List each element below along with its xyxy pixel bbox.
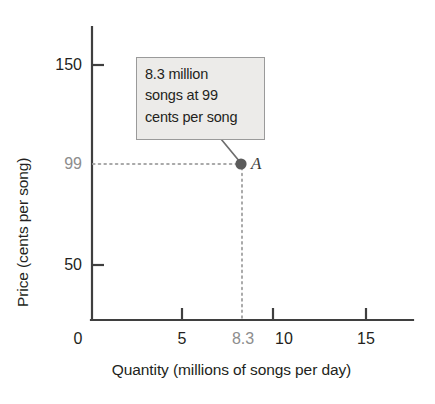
callout-line-1: 8.3 million	[145, 64, 264, 85]
x-tick-label-10: 10	[275, 330, 293, 348]
callout-leader-line	[221, 139, 240, 162]
x-tick-label-0: 0	[74, 330, 83, 348]
price-quantity-chart: Price (cents per song) Quantity (million…	[0, 0, 435, 404]
y-axis-title: Price (cents per song)	[14, 7, 32, 307]
annotation-callout-box: 8.3 million songs at 99 cents per song	[136, 57, 265, 140]
x-tick-label-5: 5	[178, 330, 187, 348]
callout-line-3: cents per song	[145, 107, 264, 128]
x-tick-label-8-3: 8.3	[232, 330, 254, 348]
callout-line-2: songs at 99	[145, 85, 264, 106]
data-point-a-label: A	[251, 154, 261, 174]
x-axis-title: Quantity (millions of songs per day)	[0, 361, 435, 379]
y-tick-label-150: 150	[36, 56, 82, 74]
x-tick-label-15: 15	[357, 330, 375, 348]
y-tick-label-50: 50	[36, 256, 82, 274]
y-tick-label-99: 99	[36, 155, 82, 173]
data-point-a	[235, 158, 246, 169]
